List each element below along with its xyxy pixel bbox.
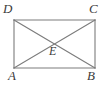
vertex-label-B: B <box>87 69 95 82</box>
vertex-label-D: D <box>3 2 12 15</box>
vertex-label-C: C <box>89 2 98 15</box>
vertex-label-A: A <box>8 69 16 82</box>
geometry-figure: D C A B E <box>0 0 108 86</box>
vertex-label-E: E <box>49 45 56 58</box>
